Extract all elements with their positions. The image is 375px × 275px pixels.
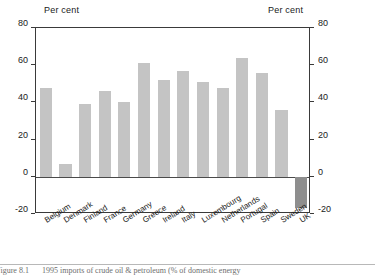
tick-label-left: 40: [0, 97, 28, 98]
tick-mark-left: [31, 101, 35, 102]
bar-series: [36, 28, 309, 212]
tick-mark-right: [310, 64, 314, 65]
tick-mark-right: [310, 176, 314, 177]
figure-chart: Per cent Per cent 808060604040202000-20-…: [0, 0, 375, 275]
bar-germany: [118, 102, 130, 176]
tick-label-right: 60: [318, 60, 358, 61]
tick-label-left: -20: [0, 209, 28, 210]
tick-label-right: 20: [318, 135, 358, 136]
bar-ireland: [158, 80, 170, 177]
bar-finland: [79, 104, 91, 177]
tick-label-left: 0: [0, 172, 28, 173]
tick-label-left: 20: [0, 135, 28, 136]
figure-caption-text: 1995 imports of crude oil & petroleum (%…: [42, 266, 240, 275]
tick-mark-left: [31, 139, 35, 140]
tick-mark-left: [31, 213, 35, 214]
figure-caption: Figure 8.11995 imports of crude oil & pe…: [0, 266, 375, 275]
bar-sweden: [275, 110, 287, 177]
bar-netherlands: [217, 88, 229, 177]
bar-denmark: [59, 164, 71, 177]
bar-france: [99, 91, 111, 177]
figure-number: Figure 8.1: [0, 266, 42, 275]
tick-mark-right: [310, 213, 314, 214]
tick-label-right: 40: [318, 97, 358, 98]
tick-label-right: 0: [318, 172, 358, 173]
bar-luxembourg: [197, 82, 209, 177]
tick-label-right: -20: [318, 209, 358, 210]
right-axis-title: Per cent: [268, 5, 303, 15]
plot-area: [35, 27, 310, 213]
tick-mark-right: [310, 27, 314, 28]
tick-label-left: 60: [0, 60, 28, 61]
tick-label-left: 80: [0, 23, 28, 24]
tick-mark-right: [310, 101, 314, 102]
tick-label-right: 80: [318, 23, 358, 24]
caption-divider: [0, 264, 375, 265]
bar-greece: [138, 63, 150, 176]
bar-italy: [177, 71, 189, 177]
tick-mark-left: [31, 27, 35, 28]
tick-mark-left: [31, 64, 35, 65]
left-axis-title: Per cent: [44, 5, 79, 15]
bar-spain: [256, 73, 268, 177]
bar-belgium: [40, 88, 52, 177]
bar-portugal: [236, 58, 248, 177]
tick-mark-right: [310, 139, 314, 140]
tick-mark-left: [31, 176, 35, 177]
